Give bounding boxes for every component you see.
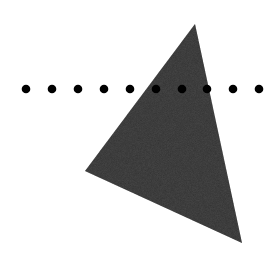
diagram-canvas (0, 0, 275, 256)
dot (229, 85, 238, 94)
dot (100, 85, 109, 94)
dot (48, 85, 57, 94)
dot (126, 85, 135, 94)
dot (152, 85, 161, 94)
dot (178, 85, 187, 94)
dot (255, 85, 264, 94)
dot (74, 85, 83, 94)
dot (203, 85, 212, 94)
dot (22, 85, 31, 94)
